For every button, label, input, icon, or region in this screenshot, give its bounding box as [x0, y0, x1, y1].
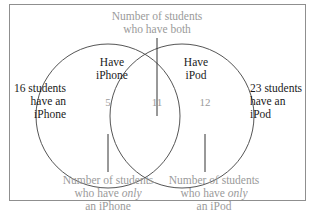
only-iphone-annotation: Number of students who have only an iPho…: [56, 174, 160, 213]
both-value: 11: [146, 96, 168, 109]
iphone-total-line2: have an: [10, 95, 66, 108]
both-annotation-line2: who have both: [107, 23, 207, 36]
ipod-total-line2: have an: [250, 95, 306, 108]
iphone-set-label-line2: iPhone: [92, 69, 132, 82]
ipod-set-label-line2: iPod: [176, 69, 216, 82]
ipod-total: 23 students have an iPod: [250, 82, 306, 121]
iphone-total: 16 students have an iPhone: [10, 82, 66, 121]
iphone-total-line3: iPhone: [10, 108, 66, 121]
both-annotation: Number of students who have both: [107, 10, 207, 36]
iphone-total-line1: 16 students: [10, 82, 66, 95]
ipod-total-line3: iPod: [250, 108, 306, 121]
only-iphone-annotation-line2: who have only: [56, 187, 160, 200]
only-iphone-value: 5: [98, 96, 118, 109]
only-iphone-annotation-line3: an iPhone: [56, 200, 160, 213]
ipod-set-label: Have iPod: [176, 56, 216, 82]
both-annotation-line1: Number of students: [107, 10, 207, 23]
ipod-total-line1: 23 students: [250, 82, 306, 95]
ipod-set-label-line1: Have: [176, 56, 216, 69]
iphone-set-label: Have iPhone: [92, 56, 132, 82]
only-ipod-annotation: Number of students who have only an iPod: [162, 174, 266, 213]
only-ipod-annotation-line1: Number of students: [162, 174, 266, 187]
only-ipod-annotation-line2-text: who have: [180, 187, 227, 199]
only-ipod-value: 12: [194, 96, 216, 109]
only-ipod-annotation-line2: who have only: [162, 187, 266, 200]
iphone-set-label-line1: Have: [92, 56, 132, 69]
only-ipod-annotation-emphasis: only: [228, 187, 248, 199]
only-iphone-annotation-line1: Number of students: [56, 174, 160, 187]
only-iphone-annotation-emphasis: only: [122, 187, 142, 199]
only-iphone-annotation-line2-text: who have: [74, 187, 121, 199]
only-ipod-annotation-line3: an iPod: [162, 200, 266, 213]
